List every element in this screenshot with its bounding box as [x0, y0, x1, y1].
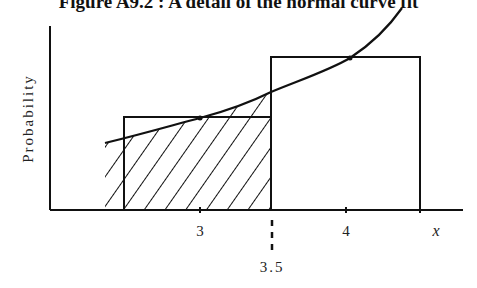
bar-4	[271, 57, 420, 210]
shaded-region	[100, 80, 272, 211]
curve-point-4	[348, 56, 353, 61]
tick-label-4: 4	[342, 223, 350, 239]
tick-label-3: 3	[196, 223, 204, 239]
x-axis-label: x	[431, 222, 439, 239]
tick-label-3.5: 3.5	[260, 259, 285, 275]
chart-canvas: 3 4 3.5 x	[0, 0, 477, 288]
curve-point-3	[198, 116, 203, 121]
